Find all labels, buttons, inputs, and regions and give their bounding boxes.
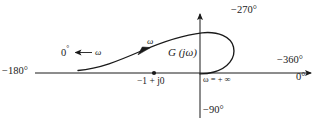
nyquist-plot-figure: −180° −270° −90° −360° 0° 0° ω ω G (jω) …: [0, 0, 321, 128]
critical-point-marker: [152, 71, 156, 75]
axis-label-minus-360: −360°: [277, 55, 303, 66]
axis-label-minus-270: −270°: [231, 5, 257, 16]
axis-label-minus-90: −90°: [203, 105, 224, 116]
nyquist-locus-curve: [78, 33, 234, 74]
axis-label-minus-180: −180°: [2, 66, 28, 77]
transfer-function-label: G (jω): [168, 47, 197, 58]
omega-infinity-label: ω = + ∞: [203, 75, 231, 84]
locus-direction-arrowhead: [138, 47, 151, 55]
axis-label-zero-degrees: 0°: [296, 72, 305, 83]
nyquist-plot-canvas: [0, 0, 321, 128]
critical-point-label: −1 + j0: [137, 77, 165, 87]
locus-start-angle-label: 0°: [61, 45, 69, 58]
omega-label-left: ω: [95, 48, 101, 57]
omega-label-on-curve: ω: [147, 37, 153, 46]
degree-sign-icon: °: [66, 44, 69, 53]
